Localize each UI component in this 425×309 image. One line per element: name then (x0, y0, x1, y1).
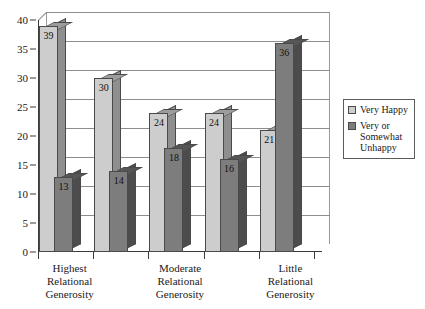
y-axis-tick-mark (30, 49, 36, 50)
bar-side-face (294, 35, 302, 248)
bar: 16 (220, 159, 239, 252)
y-axis-tick-mark (30, 78, 36, 79)
y-axis-tick-mark (30, 252, 36, 253)
legend-swatch-icon (348, 122, 356, 130)
y-axis-tick-label: 40 (17, 15, 28, 26)
bar-side-face (239, 151, 247, 248)
x-axis-category-label-line: Moderate (125, 262, 235, 275)
y-axis-tick-mark (30, 165, 36, 166)
bar-side-face (73, 169, 81, 248)
bar: 14 (109, 171, 128, 252)
bar: 13 (54, 177, 73, 252)
x-axis-category-label-line: Relational (235, 275, 345, 288)
bar: 36 (275, 43, 294, 252)
x-axis: HighestRelationalGenerosityModerateRelat… (38, 252, 330, 309)
legend-item-label: Very Happy (360, 104, 408, 115)
bar-front-face (220, 159, 239, 252)
y-axis-tick-label: 15 (17, 160, 28, 171)
chart-legend: Very HappyVery or Somewhat Unhappy (343, 99, 415, 159)
x-axis-tick-mark (204, 252, 205, 259)
bar-side-face (128, 163, 136, 248)
legend-item[interactable]: Very Happy (348, 104, 410, 115)
y-axis-tick-mark (30, 107, 36, 108)
y-axis-tick-mark (30, 136, 36, 137)
x-axis-category-label-line: Highest (15, 262, 125, 275)
y-axis-tick-mark (30, 194, 36, 195)
legend-swatch-icon (348, 106, 356, 114)
x-axis-tick-mark (148, 252, 149, 259)
bar-front-face (109, 171, 128, 252)
y-axis-tick-label: 35 (17, 44, 28, 55)
x-axis-tick-mark (259, 252, 260, 259)
y-axis-tick-mark (30, 20, 36, 21)
y-axis-tick-label: 20 (17, 131, 28, 142)
bar-front-face (275, 43, 294, 252)
legend-item[interactable]: Very or Somewhat Unhappy (348, 120, 410, 153)
legend-item-label: Very or Somewhat Unhappy (360, 120, 410, 153)
x-axis-category-label-line: Generosity (235, 288, 345, 301)
bar: 18 (164, 148, 183, 252)
gridline (46, 12, 330, 13)
x-axis-category-label-line: Generosity (15, 288, 125, 301)
y-axis-tick-label: 30 (17, 73, 28, 84)
y-axis: 0510152025303540 (0, 12, 38, 260)
x-axis-category-label-line: Relational (125, 275, 235, 288)
bar-chart: 0510152025303540 39133014241824162136 Hi… (0, 0, 425, 309)
x-axis-category-label: ModerateRelationalGenerosity (125, 262, 235, 301)
x-axis-category-label: HighestRelationalGenerosity (15, 262, 125, 301)
plot-area: 39133014241824162136 (38, 12, 330, 252)
x-axis-tick-mark (38, 252, 39, 259)
x-axis-tick-mark (93, 252, 94, 259)
bar-series-group: 39133014241824162136 (38, 20, 330, 252)
bar-front-face (164, 148, 183, 252)
y-axis-tick-label: 25 (17, 102, 28, 113)
y-axis-tick-label: 5 (23, 218, 29, 229)
x-axis-category-label-line: Relational (15, 275, 125, 288)
x-axis-category-label: LittleRelationalGenerosity (235, 262, 345, 301)
bar-front-face (54, 177, 73, 252)
x-axis-tick-mark (314, 252, 315, 259)
x-axis-category-label-line: Generosity (125, 288, 235, 301)
y-axis-tick-mark (30, 223, 36, 224)
bar-side-face (183, 140, 191, 248)
y-axis-tick-label: 0 (23, 247, 29, 258)
y-axis-tick-label: 10 (17, 189, 28, 200)
x-axis-category-label-line: Little (235, 262, 345, 275)
